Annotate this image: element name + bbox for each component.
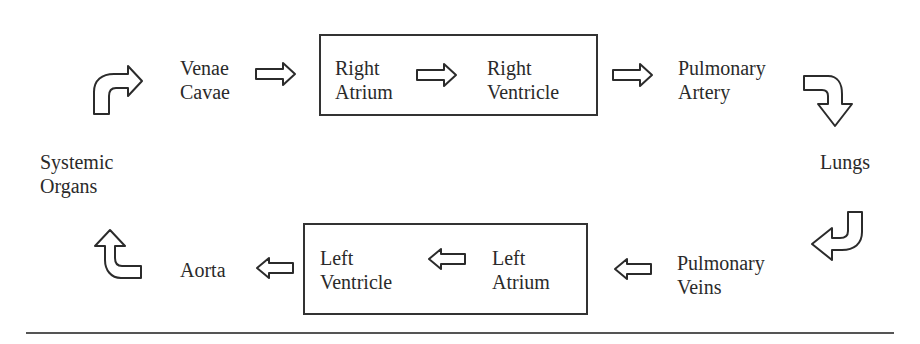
curved-arrow-down-left-icon (810, 210, 864, 262)
node-right-atrium: Right Atrium (335, 56, 393, 104)
arrow-left-icon (256, 257, 294, 279)
curved-arrow-left-up-icon (93, 228, 143, 280)
node-pulmonary-artery: Pulmonary Artery (678, 56, 766, 104)
arrow-right-icon (416, 63, 458, 87)
node-lungs: Lungs (820, 150, 870, 174)
node-left-atrium: Left Atrium (492, 246, 550, 294)
node-venae-cavae: Venae Cavae (180, 56, 230, 104)
node-pulmonary-veins: Pulmonary Veins (677, 251, 765, 299)
node-systemic-organs: Systemic Organs (40, 150, 113, 198)
curved-arrow-up-right-icon (92, 64, 144, 116)
bottom-divider (26, 332, 894, 334)
arrow-left-icon (428, 248, 466, 270)
node-right-ventricle: Right Ventricle (487, 56, 559, 104)
node-aorta: Aorta (180, 258, 226, 282)
arrow-right-icon (255, 62, 297, 86)
arrow-left-icon (614, 258, 652, 280)
curved-arrow-right-down-icon (802, 74, 854, 128)
arrow-right-icon (612, 63, 654, 87)
node-left-ventricle: Left Ventricle (320, 246, 392, 294)
